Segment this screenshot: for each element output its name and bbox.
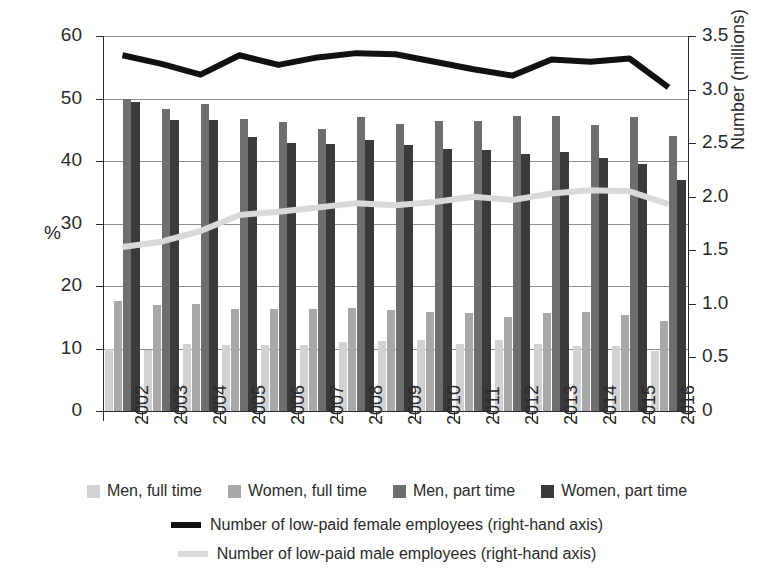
legend-label-female-line: Number of low-paid female employees (rig… [210, 516, 603, 534]
x-axis-tick-label: 2016 [678, 385, 699, 425]
legend-label: Men, full time [107, 482, 202, 500]
right-axis-tick-label: 0.5 [702, 345, 728, 367]
right-axis-tick-label: 2.0 [702, 185, 728, 207]
legend-female-line-row: Number of low-paid female employees (rig… [0, 516, 774, 534]
right-axis-tick [689, 143, 696, 144]
right-axis-tick [689, 90, 696, 91]
left-axis-tick [96, 224, 103, 225]
x-axis-tick-label: 2002 [132, 385, 153, 425]
x-axis-tick-label: 2012 [522, 385, 543, 425]
x-axis-tick-label: 2005 [249, 385, 270, 425]
legend-line-swatch-female [171, 522, 201, 528]
right-axis-tick [689, 304, 696, 305]
x-axis-tick-label: 2011 [483, 386, 504, 425]
line-series [123, 53, 669, 87]
right-axis-tick-label: 3.0 [702, 78, 728, 100]
legend-label: Men, part time [413, 482, 515, 500]
left-axis-tick-label: 0 [71, 399, 82, 421]
legend-swatch [87, 485, 100, 498]
x-axis-tick-label: 2006 [288, 385, 309, 425]
x-axis-tick-label: 2008 [366, 385, 387, 425]
right-axis-tick [689, 197, 696, 198]
legend-bar-series: Men, full timeWomen, full timeMen, part … [0, 482, 774, 500]
left-axis-tick-label: 20 [61, 274, 82, 296]
left-axis-tick-label: 60 [61, 24, 82, 46]
left-axis-tick [96, 36, 103, 37]
legend-label-male-line: Number of low-paid male employees (right… [217, 545, 597, 563]
left-axis-line [103, 36, 104, 412]
legend-swatch [228, 485, 241, 498]
x-axis-tick-label: 2003 [171, 385, 192, 425]
right-axis-line [688, 36, 689, 412]
legend-label: Women, full time [248, 482, 367, 500]
x-axis-tick-label: 2015 [639, 385, 660, 425]
legend-swatch [393, 485, 406, 498]
right-axis-tick-label: 0 [702, 399, 713, 421]
left-axis-tick-label: 40 [61, 149, 82, 171]
x-axis-tick-label: 2014 [600, 385, 621, 425]
x-axis-tick-label: 2009 [405, 385, 426, 425]
right-axis-tick [689, 36, 696, 37]
legend-line-swatch-male [178, 551, 208, 557]
left-axis-tick [96, 349, 103, 350]
x-axis-tick-label: 2004 [210, 385, 231, 425]
right-axis-tick-label: 3.5 [702, 24, 728, 46]
left-axis-title: % [44, 222, 61, 244]
legend-item: Men, full time [87, 482, 202, 500]
legend-item: Women, full time [228, 482, 367, 500]
legend-item: Men, part time [393, 482, 515, 500]
line-series-layer [103, 36, 688, 411]
right-axis-tick-label: 1.5 [702, 238, 728, 260]
x-axis-tick [103, 412, 104, 421]
left-axis-tick-label: 50 [61, 87, 82, 109]
x-axis-tick-label: 2007 [327, 385, 348, 425]
right-axis-tick [689, 357, 696, 358]
left-axis-tick [96, 99, 103, 100]
left-axis-tick [96, 161, 103, 162]
right-axis-tick [689, 250, 696, 251]
chart-container: 0102030405060 00.51.01.52.02.53.03.5 200… [0, 0, 774, 582]
right-axis-tick-label: 1.0 [702, 292, 728, 314]
x-axis-tick-label: 2013 [561, 385, 582, 425]
left-axis-tick-label: 10 [61, 337, 82, 359]
x-axis-tick-label: 2010 [444, 385, 465, 425]
left-axis-tick-label: 30 [61, 212, 82, 234]
legend-male-line-row: Number of low-paid male employees (right… [0, 545, 774, 563]
legend-swatch [541, 485, 554, 498]
legend-item: Women, part time [541, 482, 687, 500]
right-axis-tick-label: 2.5 [702, 131, 728, 153]
line-series [123, 190, 669, 247]
left-axis-tick [96, 286, 103, 287]
left-axis-tick [96, 411, 103, 412]
right-axis-title: Number (millions) [728, 9, 749, 150]
legend-label: Women, part time [561, 482, 687, 500]
